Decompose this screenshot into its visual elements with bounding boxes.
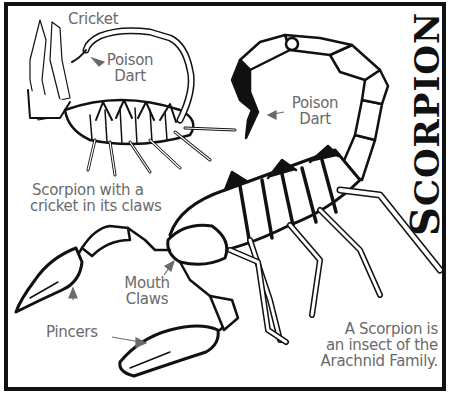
label-fact: A Scorpion is an insect of the Arachnid … (300, 321, 438, 369)
label-text: cricket in its claws (30, 198, 162, 214)
title-scorpion: SCORPION (408, 12, 444, 236)
label-cricket: Cricket (68, 11, 118, 27)
label-text: Dart (104, 68, 156, 84)
label-text: Dart (288, 111, 342, 127)
label-text: Mouth (118, 275, 176, 291)
small-scorpion-drawing (28, 20, 235, 175)
label-text: A Scorpion is (300, 321, 438, 337)
label-text: Scorpion with a (30, 182, 162, 198)
arrow-mouth-claws (165, 261, 174, 271)
title-first-letter: S (401, 206, 448, 236)
label-text: Poison (104, 52, 156, 68)
title-rest: CORPION (407, 12, 447, 206)
label-caption: Scorpion with a cricket in its claws (30, 182, 162, 214)
label-text: an insect of the (300, 337, 438, 353)
label-poison-dart-large: Poison Dart (288, 95, 342, 127)
arrow-pincers-upper (69, 288, 77, 298)
arrow-large-poison-dart (268, 111, 276, 119)
label-pincers: Pincers (46, 324, 98, 340)
label-mouth-claws: Mouth Claws (118, 275, 176, 307)
label-text: Claws (118, 291, 176, 307)
arrow-small-poison-dart (92, 58, 104, 66)
label-text: Arachnid Family. (300, 353, 438, 369)
label-text: Poison (288, 95, 342, 111)
label-poison-dart-small: Poison Dart (104, 52, 156, 84)
